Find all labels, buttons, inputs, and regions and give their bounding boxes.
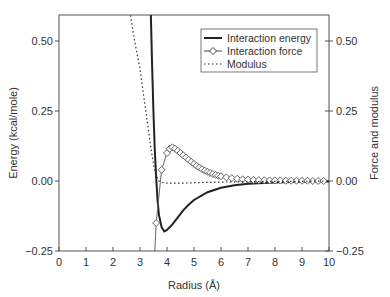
x-tick-label: 10 [323, 256, 335, 268]
y-tick-label-right: 0.00 [336, 175, 357, 187]
y-tick-label-right: 0.25 [336, 105, 357, 117]
y-tick-label-left: 0.25 [32, 105, 53, 117]
legend-label-energy: Interaction energy [227, 32, 312, 44]
y-axis-right-ticks: −0.250.000.250.50 [325, 35, 364, 257]
y-tick-label-left: 0.50 [32, 35, 53, 47]
x-tick-label: 7 [245, 256, 251, 268]
y-axis-right-label: Force and modulus [368, 85, 380, 180]
x-tick-label: 6 [218, 256, 224, 268]
x-tick-label: 1 [83, 256, 89, 268]
y-axis-left-label: Energy (kcal/mole) [7, 87, 19, 179]
y-tick-label-right: −0.25 [336, 245, 364, 257]
x-tick-label: 3 [137, 256, 143, 268]
x-tick-label: 9 [299, 256, 305, 268]
y-tick-label-left: 0.00 [32, 175, 53, 187]
x-tick-label: 8 [272, 256, 278, 268]
x-tick-label: 2 [110, 256, 116, 268]
legend-label-force: Interaction force [227, 45, 302, 57]
x-tick-label: 0 [56, 256, 62, 268]
legend-label-modulus: Modulus [227, 58, 267, 70]
y-tick-label-left: −0.25 [25, 245, 53, 257]
y-tick-label-right: 0.50 [336, 35, 357, 47]
chart: 012345678910 −0.250.000.250.50 −0.250.00… [0, 0, 390, 297]
legend: Interaction energy Interaction force Mod… [201, 29, 317, 72]
x-tick-label: 5 [191, 256, 197, 268]
x-axis-label: Radius (Å) [168, 279, 220, 291]
y-axis-left-ticks: −0.250.000.250.50 [25, 35, 59, 257]
x-tick-label: 4 [164, 256, 170, 268]
